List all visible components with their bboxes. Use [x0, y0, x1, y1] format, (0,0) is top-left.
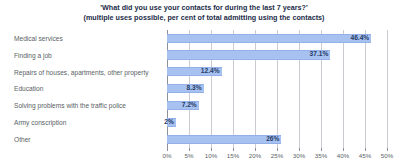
category-label: Other: [0, 131, 164, 148]
category-label: Education: [0, 81, 164, 98]
tick-label: 30%: [293, 152, 305, 160]
tick-mark: [167, 148, 168, 151]
tick-label: 50%: [381, 152, 393, 160]
tick-label: 40%: [337, 152, 349, 160]
bar-value-label: 8.3%: [187, 83, 202, 93]
tick-label: 15%: [227, 152, 239, 160]
tick-mark: [233, 148, 234, 151]
bar-value-label: 37.1%: [310, 49, 329, 59]
value-axis: 0%5%10%15%20%25%30%35%40%45%50%: [167, 148, 387, 164]
bar-row: 46.4%: [167, 30, 387, 47]
bar-value-label: 26%: [266, 134, 279, 144]
bar-chart: 'What did you use your contacts for duri…: [0, 0, 408, 168]
tick-mark: [277, 148, 278, 151]
bar-value-label: 12.4%: [201, 66, 220, 76]
tick-label: 45%: [359, 152, 371, 160]
category-label: Solving problems with the traffic police: [0, 97, 164, 114]
bar-row: 8.3%: [167, 81, 387, 98]
tick-mark: [211, 148, 212, 151]
bar[interactable]: [167, 50, 330, 59]
tick-mark: [365, 148, 366, 151]
bar-value-label: 46.4%: [350, 33, 369, 43]
tick-label: 20%: [249, 152, 261, 160]
tick-mark: [255, 148, 256, 151]
gridline-50: [387, 30, 388, 148]
chart-title: 'What did you use your contacts for duri…: [0, 3, 408, 13]
bar-value-label: 2%: [164, 117, 174, 127]
chart-title-block: 'What did you use your contacts for duri…: [0, 3, 408, 23]
bar[interactable]: [167, 135, 281, 144]
category-label: Medical services: [0, 30, 164, 47]
bar-series: 46.4%37.1%12.4%8.3%7.2%2%26%: [167, 30, 387, 148]
bar-row: 26%: [167, 131, 387, 148]
tick-label: 0%: [163, 152, 172, 160]
bar[interactable]: [167, 34, 371, 43]
tick-mark: [387, 148, 388, 151]
bar-row: 2%: [167, 114, 387, 131]
chart-subtitle: (multiple uses possible, per cent of tot…: [0, 13, 408, 23]
tick-mark: [321, 148, 322, 151]
tick-label: 25%: [271, 152, 283, 160]
category-axis-labels: Medical servicesFinding a jobRepairs of …: [0, 30, 164, 148]
tick-mark: [299, 148, 300, 151]
bar-row: 7.2%: [167, 97, 387, 114]
plot-area: 46.4%37.1%12.4%8.3%7.2%2%26%: [167, 30, 387, 148]
tick-label: 10%: [205, 152, 217, 160]
tick-mark: [189, 148, 190, 151]
tick-label: 5%: [185, 152, 194, 160]
tick-label: 35%: [315, 152, 327, 160]
category-label: Finding a job: [0, 47, 164, 64]
bar-value-label: 7.2%: [182, 100, 197, 110]
tick-mark: [343, 148, 344, 151]
bar-row: 12.4%: [167, 64, 387, 81]
category-label: Army conscription: [0, 114, 164, 131]
bar-row: 37.1%: [167, 47, 387, 64]
category-label: Repairs of houses, apartments, other pro…: [0, 64, 164, 81]
